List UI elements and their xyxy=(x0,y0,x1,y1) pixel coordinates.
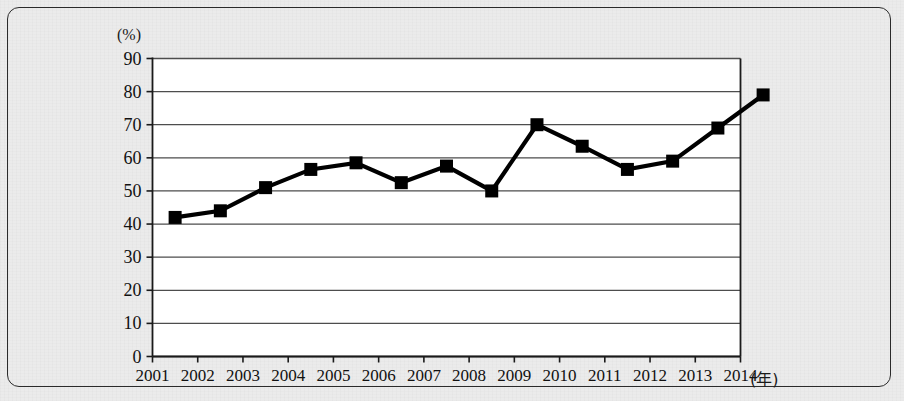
y-tick-labels: 0102030405060708090 xyxy=(124,49,142,367)
svg-text:20: 20 xyxy=(124,280,142,300)
svg-text:2001: 2001 xyxy=(136,366,170,385)
plot-background xyxy=(153,59,741,357)
svg-text:2010: 2010 xyxy=(543,366,577,385)
svg-text:10: 10 xyxy=(124,313,142,333)
svg-text:2007: 2007 xyxy=(407,366,442,385)
svg-text:2014: 2014 xyxy=(724,366,759,385)
svg-text:70: 70 xyxy=(124,115,142,135)
svg-text:2005: 2005 xyxy=(316,366,350,385)
svg-text:80: 80 xyxy=(124,82,142,102)
svg-text:90: 90 xyxy=(124,49,142,69)
svg-text:2008: 2008 xyxy=(452,366,486,385)
svg-text:2004: 2004 xyxy=(271,366,306,385)
plot-area: (%) (年) 0102030405060708090 200120022003… xyxy=(0,0,904,401)
line-chart-svg: 0102030405060708090 20012002200320042005… xyxy=(0,0,904,401)
svg-text:50: 50 xyxy=(124,181,142,201)
svg-text:2012: 2012 xyxy=(633,366,667,385)
svg-text:2002: 2002 xyxy=(181,366,215,385)
svg-text:40: 40 xyxy=(124,214,142,234)
svg-text:2009: 2009 xyxy=(497,366,531,385)
svg-text:2013: 2013 xyxy=(678,366,712,385)
svg-text:30: 30 xyxy=(124,247,142,267)
svg-text:0: 0 xyxy=(133,347,142,367)
svg-text:2006: 2006 xyxy=(362,366,396,385)
svg-text:2003: 2003 xyxy=(226,366,260,385)
svg-text:2011: 2011 xyxy=(588,366,621,385)
y-axis xyxy=(147,58,153,357)
svg-text:60: 60 xyxy=(124,148,142,168)
chart-figure: (%) (年) 0102030405060708090 200120022003… xyxy=(0,0,904,401)
x-tick-labels: 2001200220032004200520062007200820092010… xyxy=(136,366,759,385)
